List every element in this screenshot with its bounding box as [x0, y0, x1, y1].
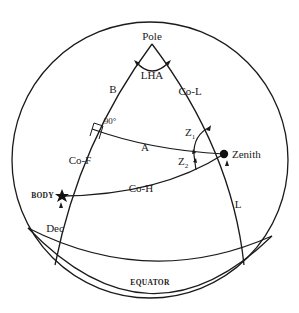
- body-label: BODY: [31, 191, 54, 200]
- l-arrow-icon: [225, 160, 229, 166]
- a-label: A: [141, 141, 149, 153]
- zenith-point: [220, 150, 228, 158]
- z2-label: Z2: [178, 155, 189, 170]
- right-angle-label: 90°: [104, 116, 117, 126]
- co-h-label: Co-H: [129, 182, 154, 194]
- z1-label: Z1: [185, 126, 196, 141]
- equator-label: EQUATOR: [130, 278, 170, 287]
- co-f-label: Co-F: [69, 154, 92, 166]
- line-a: [92, 129, 224, 154]
- diagram-container: Pole LHA B Co-L 90° A Z1 Z2 Zenith Co-F …: [0, 0, 299, 313]
- equator-upper-arc: [28, 228, 272, 261]
- z1-arrow-icon: [206, 125, 211, 131]
- navigational-triangle-diagram: Pole LHA B Co-L 90° A Z1 Z2 Zenith Co-F …: [0, 0, 299, 313]
- body-star-icon: [55, 189, 69, 202]
- l-label: L: [235, 198, 242, 210]
- zenith-meridian-line: [152, 44, 244, 265]
- lha-label: LHA: [141, 69, 164, 81]
- z1-arc: [194, 127, 210, 155]
- zenith-label: Zenith: [232, 148, 261, 160]
- pole-label: Pole: [142, 30, 162, 42]
- celestial-sphere-outline: [12, 22, 288, 298]
- dec-label: Dec: [46, 222, 64, 234]
- b-label: B: [109, 83, 116, 95]
- dec-arrow-icon: [59, 202, 63, 208]
- co-l-label: Co-L: [178, 85, 202, 97]
